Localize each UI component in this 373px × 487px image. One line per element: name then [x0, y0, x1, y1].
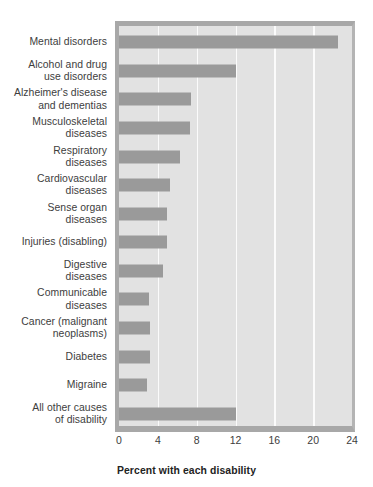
- category-label: Sense organ diseases: [48, 202, 107, 226]
- category-label: Alcohol and drug use disorders: [28, 59, 107, 83]
- x-tick-label: 20: [307, 434, 319, 446]
- bar: [119, 264, 163, 277]
- bar: [119, 179, 170, 192]
- bar: [119, 93, 191, 106]
- y-axis-category-labels: Mental disordersAlcohol and drug use dis…: [0, 21, 113, 432]
- bar: [119, 236, 167, 249]
- category-label: Cancer (malignant neoplasms): [21, 316, 107, 340]
- plot-area: [115, 21, 355, 432]
- category-label: Injuries (disabling): [22, 236, 107, 248]
- x-tick-label: 4: [155, 434, 161, 446]
- bar: [119, 407, 236, 420]
- x-tick-label: 12: [230, 434, 242, 446]
- x-axis-tick-labels: 04812162024: [115, 434, 355, 450]
- category-label: Cardiovascular diseases: [37, 173, 107, 197]
- category-label: Diabetes: [66, 350, 107, 362]
- bar: [119, 322, 150, 335]
- category-label: Musculoskeletal diseases: [32, 116, 107, 140]
- x-tick-label: 8: [194, 434, 200, 446]
- category-label: Alzheimer's disease and dementias: [14, 87, 107, 111]
- category-label: Communicable diseases: [37, 287, 107, 311]
- bar: [119, 350, 150, 363]
- bar: [119, 150, 180, 163]
- gridline-24: [352, 26, 354, 426]
- bars-layer: [119, 26, 352, 426]
- disability-bar-chart: Mental disordersAlcohol and drug use dis…: [0, 0, 373, 487]
- x-tick-label: 24: [346, 434, 358, 446]
- x-tick-label: 16: [268, 434, 280, 446]
- bar: [119, 64, 236, 77]
- bar: [119, 36, 338, 49]
- category-label: Migraine: [67, 379, 107, 391]
- category-label: All other causes of disability: [32, 402, 107, 426]
- bar: [119, 207, 167, 220]
- bar: [119, 379, 147, 392]
- category-label: Mental disorders: [29, 36, 107, 48]
- x-tick-label: 0: [116, 434, 122, 446]
- category-label: Digestive diseases: [64, 259, 107, 283]
- bar: [119, 122, 190, 135]
- x-axis-title: Percent with each disability: [0, 465, 373, 476]
- bar: [119, 293, 149, 306]
- category-label: Respiratory diseases: [53, 144, 107, 168]
